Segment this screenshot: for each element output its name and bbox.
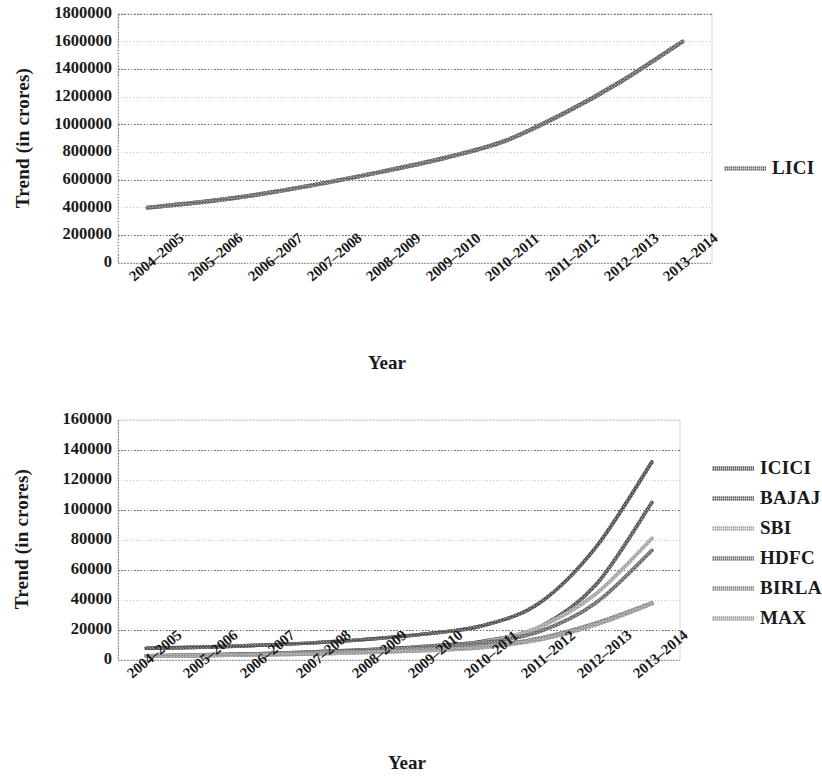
legend-swatch-bajaj bbox=[712, 496, 754, 501]
legend-label: MAX bbox=[760, 607, 806, 629]
legend-label: BIRLA bbox=[760, 577, 822, 599]
x-tick-label: 2010–2011 bbox=[482, 230, 543, 285]
legend-item-lici[interactable]: LICI bbox=[724, 153, 814, 183]
x-tick-label: 2004–2005 bbox=[124, 627, 185, 682]
legend-item-hdfc[interactable]: HDFC bbox=[712, 543, 822, 573]
legend-bottom: ICICIBAJAJSBIHDFCBIRLAMAX bbox=[712, 453, 822, 633]
x-tick-label: 2007–2008 bbox=[293, 627, 354, 682]
x-tick-label: 2008–2009 bbox=[349, 627, 410, 682]
x-tick-label: 2011–2012 bbox=[518, 627, 579, 682]
x-tick-label: 2011–2012 bbox=[542, 230, 603, 285]
legend-item-sbi[interactable]: SBI bbox=[712, 513, 822, 543]
x-tick-label: 2012–2013 bbox=[601, 230, 662, 285]
legend-label: ICICI bbox=[760, 457, 811, 479]
x-tick-label: 2007–2008 bbox=[304, 230, 365, 285]
legend-item-bajaj[interactable]: BAJAJ bbox=[712, 483, 822, 513]
legend-swatch-sbi bbox=[712, 526, 754, 531]
legend-item-max[interactable]: MAX bbox=[712, 603, 822, 633]
x-tick-label: 2006–2007 bbox=[245, 230, 306, 285]
legend-label: BAJAJ bbox=[760, 487, 821, 509]
legend-label: LICI bbox=[772, 157, 814, 179]
legend-item-icici[interactable]: ICICI bbox=[712, 453, 822, 483]
x-tick-label: 2010–2011 bbox=[461, 627, 522, 682]
x-tick-label: 2012–2013 bbox=[574, 627, 635, 682]
x-tick-label: 2013–2014 bbox=[630, 627, 691, 682]
x-axis-tick-labels-top: 2004–20052005–20062006–20072007–20082008… bbox=[0, 0, 817, 390]
legend-swatch-max bbox=[712, 616, 754, 621]
x-tick-label: 2008–2009 bbox=[363, 230, 424, 285]
private-insurers-plot-area: Trend (in crores) 1600001400001200001000… bbox=[0, 390, 817, 779]
legend-top: LICI bbox=[724, 153, 814, 183]
legend-label: SBI bbox=[760, 517, 792, 539]
lici-plot-area: Trend (in crores) 1800000160000014000001… bbox=[0, 0, 817, 390]
legend-swatch-hdfc bbox=[712, 556, 754, 561]
x-axis-title-bottom: Year bbox=[388, 752, 426, 774]
x-tick-label: 2004–2005 bbox=[126, 230, 187, 285]
x-tick-label: 2005–2006 bbox=[185, 230, 246, 285]
x-axis-title-top: Year bbox=[368, 352, 406, 374]
legend-item-birla[interactable]: BIRLA bbox=[712, 573, 822, 603]
legend-label: HDFC bbox=[760, 547, 815, 569]
x-tick-label: 2006–2007 bbox=[237, 627, 298, 682]
x-tick-label: 2013–2014 bbox=[660, 230, 721, 285]
lici-trend-figure: Trend (in crores) 1800000160000014000001… bbox=[0, 0, 817, 390]
legend-swatch-lici bbox=[724, 166, 766, 171]
x-tick-label: 2005–2006 bbox=[180, 627, 241, 682]
private-insurers-trend-figure: Trend (in crores) 1600001400001200001000… bbox=[0, 390, 817, 779]
legend-swatch-icici bbox=[712, 466, 754, 471]
x-axis-tick-labels-bottom: 2004–20052005–20062006–20072007–20082008… bbox=[0, 390, 817, 779]
legend-swatch-birla bbox=[712, 586, 754, 591]
x-tick-label: 2009–2010 bbox=[405, 627, 466, 682]
x-tick-label: 2009–2010 bbox=[423, 230, 484, 285]
